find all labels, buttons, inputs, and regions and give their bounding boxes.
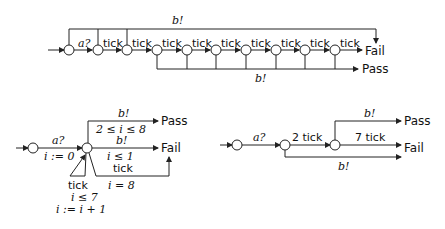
pass-outcome: Pass	[161, 114, 188, 128]
state-node	[330, 45, 340, 55]
input-label: a?	[52, 134, 65, 147]
state-node	[232, 140, 242, 150]
pass-label: b!	[118, 107, 129, 120]
state-node	[330, 140, 340, 150]
tick-label: tick	[340, 37, 360, 50]
diagram-canvas: a? tick tick tick tick tick tick tick ti…	[0, 0, 445, 229]
tick-label: tick	[251, 37, 271, 50]
fail-outcome: Fail	[365, 44, 385, 58]
state-node	[211, 45, 221, 55]
fail-label: b!	[116, 134, 127, 147]
state-node	[182, 45, 192, 55]
state-node	[300, 45, 310, 55]
top-bar-label: b!	[172, 14, 183, 27]
loop-update: i := i + 1	[56, 203, 106, 216]
input-label: a?	[78, 37, 91, 50]
tick-label: tick	[162, 37, 182, 50]
state-node	[82, 143, 92, 153]
fail-outcome: Fail	[404, 141, 424, 155]
state-node	[64, 45, 74, 55]
pass-outcome: Pass	[404, 114, 431, 128]
tick-label: tick	[132, 37, 152, 50]
tick-label: tick	[310, 37, 330, 50]
two-tick-label: 2 tick	[292, 131, 323, 144]
state-node	[28, 143, 38, 153]
pass-label: b!	[364, 107, 375, 120]
input-label: a?	[253, 131, 266, 144]
state-node	[93, 45, 103, 55]
bottom-right-automaton: a? 2 tick b! Pass 7 tick Fail b!	[220, 107, 431, 173]
tick-label: tick	[281, 37, 301, 50]
tick-label: tick	[103, 37, 123, 50]
fail-label: b!	[338, 160, 349, 173]
input-update: i := 0	[44, 150, 74, 163]
fail-outcome: Fail	[161, 141, 181, 155]
tick-label: tick	[221, 37, 241, 50]
seven-tick-label: 7 tick	[355, 131, 386, 144]
tick-fail-label: tick	[113, 162, 133, 175]
bottom-bar-label: b!	[255, 72, 266, 85]
tick-fail-guard: i = 8	[108, 179, 135, 192]
tick-label: tick	[192, 37, 212, 50]
state-node	[271, 45, 281, 55]
bottom-left-automaton: a? i := 0 b! 2 ≤ i ≤ 8 Pass b! i ≤ 1 Fai…	[16, 107, 188, 216]
pass-outcome: Pass	[362, 62, 389, 76]
top-automaton: a? tick tick tick tick tick tick tick ti…	[48, 14, 389, 85]
state-node	[280, 140, 290, 150]
state-node	[241, 45, 251, 55]
state-node	[152, 45, 162, 55]
state-node	[122, 45, 132, 55]
